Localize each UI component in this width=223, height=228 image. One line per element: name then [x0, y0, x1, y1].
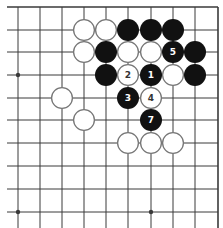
stone-disc: [184, 64, 206, 86]
stone-disc: [95, 41, 117, 63]
black-stone-move-5: 5: [162, 41, 184, 63]
stone-disc: [96, 20, 117, 41]
white-stone: [141, 42, 162, 63]
move-number-label: 5: [170, 47, 176, 57]
star-point: [16, 210, 20, 214]
stone-disc: [141, 133, 162, 154]
stone-disc: [163, 65, 184, 86]
black-stone: [95, 64, 117, 86]
black-stone: [162, 19, 184, 41]
stone-disc: [118, 42, 139, 63]
black-stone-move-7: 7: [140, 109, 162, 131]
white-stone: [118, 42, 139, 63]
black-stone-move-3: 3: [117, 87, 139, 109]
black-stone: [95, 41, 117, 63]
white-stone: [74, 20, 95, 41]
stone-disc: [74, 42, 95, 63]
stone-disc: [117, 19, 139, 41]
white-stone: [74, 42, 95, 63]
stone-disc: [74, 110, 95, 131]
white-stone: [118, 133, 139, 154]
stone-disc: [184, 41, 206, 63]
stone-disc: [141, 42, 162, 63]
move-number-label: 1: [148, 70, 154, 80]
black-stone-move-1: 1: [140, 64, 162, 86]
white-stone: [163, 65, 184, 86]
black-stone: [184, 64, 206, 86]
board-grid: [7, 7, 218, 228]
stone-disc: [140, 19, 162, 41]
stones-layer: 521347: [52, 19, 206, 153]
white-stone: [74, 110, 95, 131]
move-number-label: 3: [125, 93, 131, 103]
move-number-label: 2: [125, 70, 131, 80]
star-point: [16, 73, 20, 77]
white-stone: [141, 133, 162, 154]
go-board: 521347: [0, 0, 223, 228]
star-point: [149, 210, 153, 214]
black-stone: [140, 19, 162, 41]
white-stone: [96, 20, 117, 41]
white-stone: [163, 133, 184, 154]
black-stone: [117, 19, 139, 41]
stone-disc: [74, 20, 95, 41]
stone-disc: [162, 19, 184, 41]
stone-disc: [95, 64, 117, 86]
stone-disc: [52, 88, 73, 109]
white-stone-move-2: 2: [118, 65, 139, 86]
stone-disc: [163, 133, 184, 154]
white-stone-move-4: 4: [141, 88, 162, 109]
move-number-label: 4: [148, 93, 154, 103]
move-number-label: 7: [148, 115, 154, 125]
black-stone: [184, 41, 206, 63]
white-stone: [52, 88, 73, 109]
stone-disc: [118, 133, 139, 154]
